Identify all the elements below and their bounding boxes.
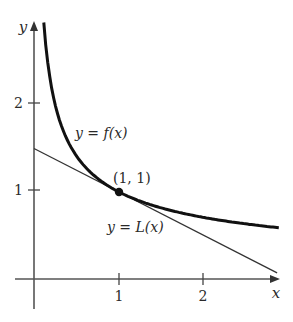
y-tick-label-2: 2 <box>14 95 23 111</box>
x-tick-label-1: 1 <box>115 288 124 304</box>
point-label: (1, 1) <box>113 170 151 186</box>
chart-figure: 1 2 1 2 x y (1, 1) y = f(x) y = L(x) <box>0 0 293 322</box>
point-marker <box>115 188 123 196</box>
L-series-label: y = L(x) <box>106 219 164 235</box>
x-axis-arrow-icon <box>270 275 280 283</box>
series-line-L <box>34 149 277 273</box>
y-tick-label-1: 1 <box>14 182 23 198</box>
f-series-label: y = f(x) <box>74 125 128 141</box>
x-axis-label: x <box>272 284 281 302</box>
y-axis-arrow-icon <box>30 21 38 31</box>
x-tick-label-2: 2 <box>199 288 208 304</box>
y-axis-label: y <box>18 18 28 36</box>
plot-area: 1 2 1 2 x y (1, 1) y = f(x) y = L(x) <box>0 0 293 322</box>
